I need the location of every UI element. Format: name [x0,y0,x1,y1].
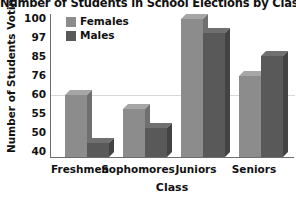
bar-juniors-females [181,19,203,157]
bar-seniors-females [239,76,261,157]
bar-face [181,19,203,157]
bar-side-face [283,51,288,157]
y-tick-label: 85 [22,51,46,61]
legend-entry-males: Males [66,29,129,42]
bar-side-face [167,123,172,157]
legend: Females Males [66,15,129,43]
chart-title: Number of Students in School Elections b… [0,0,296,10]
bar-freshmen-males [87,143,109,157]
y-axis-title: Number of Students Voting [5,23,17,153]
bar-face [261,56,283,157]
bar-side-face [225,28,230,157]
y-tick-label: 55 [22,108,46,118]
bar-face [239,76,261,157]
y-tick-label: 97 [22,32,46,42]
legend-label: Females [80,16,129,27]
y-tick-label: 40 [22,146,46,156]
bar-seniors-males [261,56,283,157]
legend-entry-females: Females [66,15,129,28]
y-tick-label: 50 [22,127,46,137]
bar-face [65,95,87,157]
bar-juniors-males [203,33,225,157]
bar-face [145,128,167,157]
x-tick-label-seniors: Seniors [214,163,294,175]
legend-label: Males [80,30,115,41]
bar-sophomores-males [145,128,167,157]
y-tick-label: 76 [22,70,46,80]
legend-swatch-icon [66,31,76,41]
bar-face [87,143,109,157]
y-tick-label: 100 [22,13,46,23]
y-tick-label: 60 [22,89,46,99]
bar-side-face [109,138,114,157]
bar-freshmen-females [65,95,87,157]
bar-chart: Number of Students in School Elections b… [0,0,296,198]
legend-swatch-icon [66,17,76,27]
bar-sophomores-females [123,109,145,157]
bar-face [203,33,225,157]
bar-face [123,109,145,157]
x-axis-title: Class [50,181,294,194]
